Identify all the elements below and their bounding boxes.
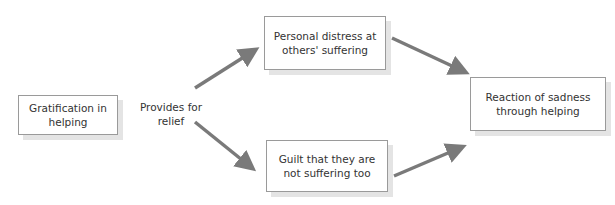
node-gratification: Gratification in helping bbox=[18, 95, 118, 135]
arrow-distress-to-reaction bbox=[392, 38, 465, 72]
node-guilt-text: Guilt that they are not suffering too bbox=[273, 152, 381, 180]
node-guilt: Guilt that they are not suffering too bbox=[266, 140, 388, 192]
node-distress-text: Personal distress at others' suffering bbox=[271, 29, 379, 57]
arrow-to-guilt bbox=[195, 122, 252, 168]
arrow-to-distress bbox=[195, 50, 255, 88]
node-reaction: Reaction of sadness through helping bbox=[470, 77, 606, 131]
node-reaction-text: Reaction of sadness through helping bbox=[477, 90, 599, 118]
node-distress: Personal distress at others' suffering bbox=[264, 16, 386, 70]
edge-label-provides-relief: Provides for relief bbox=[134, 100, 208, 128]
arrow-guilt-to-reaction bbox=[394, 147, 462, 176]
node-gratification-text: Gratification in helping bbox=[25, 101, 111, 129]
